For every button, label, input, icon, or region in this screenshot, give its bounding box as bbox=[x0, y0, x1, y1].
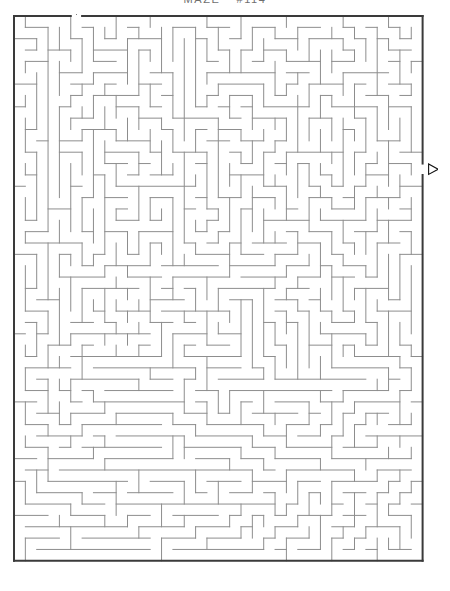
page-title-number: #114 bbox=[236, 0, 266, 5]
page-title: MAZE#114 bbox=[0, 0, 450, 5]
maze-marker-layer bbox=[71, 14, 438, 174]
page-title-main: MAZE bbox=[183, 0, 220, 5]
maze-canvas[interactable] bbox=[12, 14, 438, 580]
maze-figure bbox=[12, 14, 438, 580]
maze-puzzle-page: MAZE#114 bbox=[0, 0, 450, 591]
exit-marker[interactable] bbox=[429, 164, 438, 174]
maze-wall-layer bbox=[14, 16, 423, 561]
